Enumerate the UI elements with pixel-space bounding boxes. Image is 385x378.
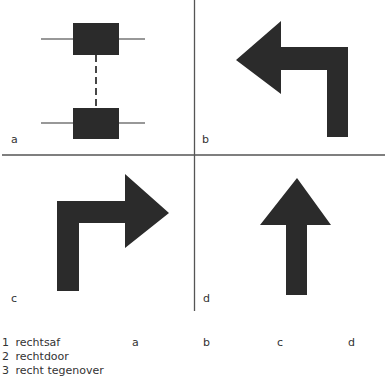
legend-item-number: 2 (2, 350, 12, 364)
answer-column-d: d (348, 336, 355, 349)
legend-item-number: 1 (2, 336, 12, 350)
panel-label-b: b (202, 133, 209, 146)
turn-left-arrow-icon (236, 21, 348, 137)
answer-column-c: c (277, 336, 283, 349)
legend-item-number: 3 (2, 364, 12, 378)
legend-item: 2 rechtdoor (2, 350, 104, 364)
panel-a-graphic (41, 23, 145, 139)
straight-up-arrow-icon (260, 178, 331, 295)
panel-label-d: d (203, 292, 210, 305)
legend-item: 3 recht tegenover (2, 364, 104, 378)
panel-label-a: a (11, 133, 18, 146)
answer-column-b: b (203, 336, 210, 349)
legend: 1 rechtsaf 2 rechtdoor 3 recht tegenover (2, 336, 104, 378)
legend-item: 1 rechtsaf (2, 336, 104, 350)
turn-right-arrow-icon (57, 174, 169, 291)
answer-column-a: a (132, 336, 139, 349)
bottom-box (73, 108, 119, 139)
panel-label-c: c (11, 292, 17, 305)
legend-item-text: recht tegenover (16, 364, 104, 377)
legend-item-text: rechtsaf (16, 336, 61, 349)
legend-item-text: rechtdoor (16, 350, 69, 363)
top-box (73, 23, 119, 55)
